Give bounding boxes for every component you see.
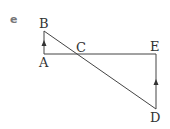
parallel-arrow-icon	[154, 79, 159, 85]
point-label-e: E	[150, 39, 160, 54]
point-label-a: A	[38, 55, 49, 70]
segment-bd	[44, 31, 156, 109]
parallel-arrow-icon	[42, 40, 47, 46]
diagram-svg: e B A C E D	[0, 0, 170, 129]
part-label: e	[10, 13, 17, 26]
geometry-figure: e B A C E D	[0, 0, 170, 129]
point-label-b: B	[39, 16, 49, 31]
point-label-c: C	[76, 40, 86, 55]
point-label-d: D	[150, 110, 160, 125]
